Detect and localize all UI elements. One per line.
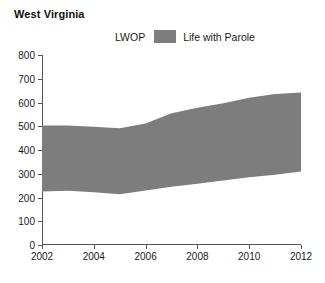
y-tick-400 xyxy=(38,150,42,151)
x-tick-label-2006: 2006 xyxy=(134,251,156,262)
x-tick-2012 xyxy=(301,245,302,249)
y-tick-label-200: 200 xyxy=(18,192,35,203)
legend-item-life-with-parole: Life with Parole xyxy=(154,30,255,43)
band-life-with-parole xyxy=(42,93,301,195)
area-band xyxy=(42,55,301,246)
plot-area: 0100200300400500600700800 20022004200620… xyxy=(42,55,300,245)
chart-root: West Virginia LWOP Life with Parole 0100… xyxy=(0,0,325,283)
legend-swatch-life-with-parole xyxy=(154,30,176,43)
y-tick-label-800: 800 xyxy=(18,50,35,61)
y-tick-label-300: 300 xyxy=(18,168,35,179)
legend-item-lwop: LWOP xyxy=(108,30,145,43)
y-tick-600 xyxy=(38,103,42,104)
x-tick-2006 xyxy=(146,245,147,249)
y-tick-label-100: 100 xyxy=(18,216,35,227)
x-tick-label-2012: 2012 xyxy=(290,251,312,262)
chart-legend: LWOP Life with Parole xyxy=(108,30,255,43)
legend-label-lwop: LWOP xyxy=(115,31,145,43)
y-tick-200 xyxy=(38,198,42,199)
y-tick-500 xyxy=(38,126,42,127)
x-tick-label-2004: 2004 xyxy=(83,251,105,262)
y-tick-label-700: 700 xyxy=(18,73,35,84)
x-tick-label-2008: 2008 xyxy=(186,251,208,262)
y-tick-label-600: 600 xyxy=(18,97,35,108)
page-title: West Virginia xyxy=(14,8,85,20)
y-tick-300 xyxy=(38,174,42,175)
y-tick-label-400: 400 xyxy=(18,145,35,156)
x-tick-2008 xyxy=(197,245,198,249)
x-tick-label-2010: 2010 xyxy=(238,251,260,262)
legend-label-life-with-parole: Life with Parole xyxy=(183,31,255,43)
y-tick-100 xyxy=(38,221,42,222)
x-tick-2002 xyxy=(42,245,43,249)
y-tick-700 xyxy=(38,79,42,80)
y-tick-label-0: 0 xyxy=(29,240,35,251)
x-tick-2010 xyxy=(249,245,250,249)
x-tick-label-2002: 2002 xyxy=(31,251,53,262)
x-tick-2004 xyxy=(94,245,95,249)
y-tick-800 xyxy=(38,55,42,56)
y-tick-label-500: 500 xyxy=(18,121,35,132)
